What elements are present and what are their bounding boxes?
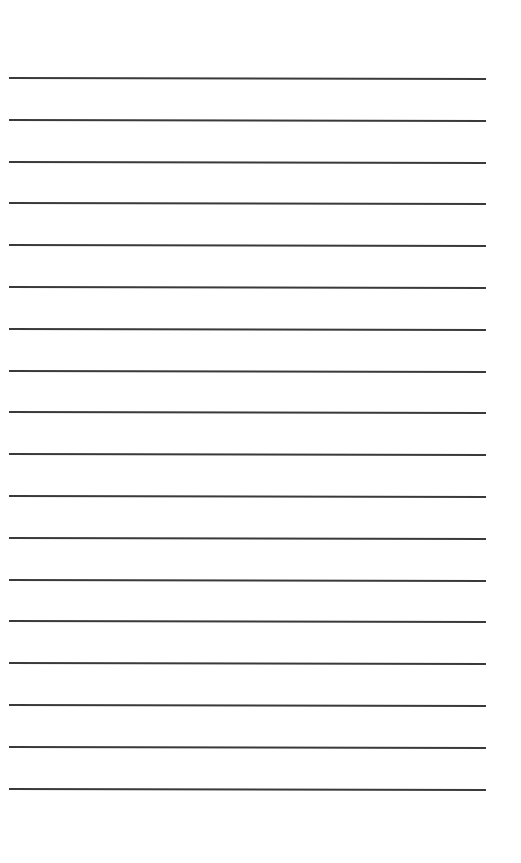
- ruled-line: [9, 119, 486, 122]
- ruled-line: [9, 662, 486, 665]
- ruled-line: [9, 453, 486, 456]
- ruled-line: [9, 411, 486, 414]
- ruled-line: [9, 202, 486, 205]
- ruled-line: [9, 77, 486, 80]
- ruled-line: [9, 244, 486, 247]
- ruled-line: [9, 746, 486, 749]
- ruled-line: [9, 286, 486, 289]
- lined-page: [0, 0, 521, 863]
- ruled-line: [9, 495, 486, 498]
- ruled-line: [9, 537, 486, 540]
- ruled-line: [9, 704, 486, 707]
- ruled-line: [9, 328, 486, 331]
- ruled-line: [9, 620, 486, 623]
- ruled-line: [9, 370, 486, 373]
- ruled-line: [9, 161, 486, 164]
- ruled-line: [9, 579, 486, 582]
- ruled-line: [9, 788, 486, 791]
